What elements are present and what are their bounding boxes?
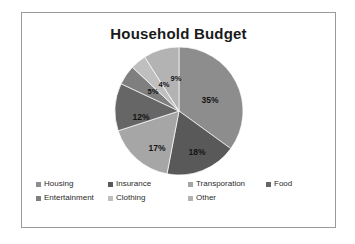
pie-slice-value-label: 9% xyxy=(171,74,182,83)
legend-item-label: Clothing xyxy=(116,194,145,202)
legend-swatch-icon xyxy=(188,196,193,201)
legend-swatch-icon xyxy=(266,182,271,187)
legend-item-label: Entertainment xyxy=(44,194,94,202)
legend-item-label: Insurance xyxy=(116,180,151,188)
pie-slice-value-label: 4% xyxy=(159,80,170,89)
pie-slice-value-label: 5% xyxy=(148,87,159,96)
chart-legend: HousingInsuranceTransporationFoodEnterta… xyxy=(36,177,323,205)
legend-item-label: Transporation xyxy=(196,180,245,188)
legend-item-label: Food xyxy=(274,180,292,188)
pie-slice-group xyxy=(115,47,243,175)
legend-item[interactable]: Transporation xyxy=(188,180,266,188)
legend-swatch-icon xyxy=(188,182,193,187)
legend-item[interactable]: Other xyxy=(188,194,266,202)
chart-title: Household Budget xyxy=(22,25,335,42)
pie-slice-value-label: 18% xyxy=(188,147,205,157)
legend-item[interactable]: Entertainment xyxy=(36,194,108,202)
pie-slice-value-label: 12% xyxy=(132,112,149,122)
legend-swatch-icon xyxy=(108,182,113,187)
legend-swatch-icon xyxy=(108,196,113,201)
legend-item[interactable]: Housing xyxy=(36,180,108,188)
chart-frame: Household Budget 35%18%17%12%5%4%9% Hous… xyxy=(21,12,336,228)
legend-swatch-icon xyxy=(36,182,41,187)
legend-item-label: Housing xyxy=(44,180,73,188)
pie-chart: 35%18%17%12%5%4%9% xyxy=(114,46,244,176)
legend-row: EntertainmentClothingOther xyxy=(36,191,323,205)
pie-chart-svg: 35%18%17%12%5%4%9% xyxy=(114,46,244,176)
pie-slice-value-label: 17% xyxy=(148,143,165,153)
legend-item-label: Other xyxy=(196,194,216,202)
pie-slice-value-label: 35% xyxy=(201,95,218,105)
legend-item[interactable]: Insurance xyxy=(108,180,188,188)
legend-item[interactable]: Food xyxy=(266,180,306,188)
legend-item[interactable]: Clothing xyxy=(108,194,188,202)
legend-swatch-icon xyxy=(36,196,41,201)
legend-row: HousingInsuranceTransporationFood xyxy=(36,177,323,191)
